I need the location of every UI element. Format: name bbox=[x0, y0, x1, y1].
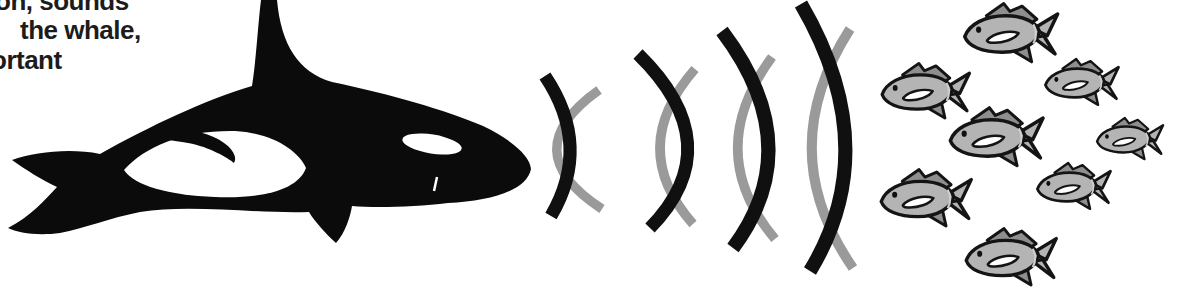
fish bbox=[1045, 59, 1118, 105]
fish bbox=[966, 229, 1056, 285]
fish bbox=[881, 170, 971, 226]
scene-svg bbox=[0, 0, 1178, 296]
fish-school bbox=[881, 4, 1163, 285]
orca-body bbox=[8, 0, 531, 243]
fish bbox=[1037, 163, 1110, 209]
sound-waves bbox=[545, 4, 853, 271]
fish bbox=[882, 63, 969, 118]
echolocation-illustration: on, sounds the whale, ortant bbox=[0, 0, 1178, 296]
fish bbox=[965, 4, 1058, 62]
orca-whale bbox=[8, 0, 531, 243]
fish bbox=[950, 108, 1043, 166]
fish bbox=[1097, 118, 1163, 159]
